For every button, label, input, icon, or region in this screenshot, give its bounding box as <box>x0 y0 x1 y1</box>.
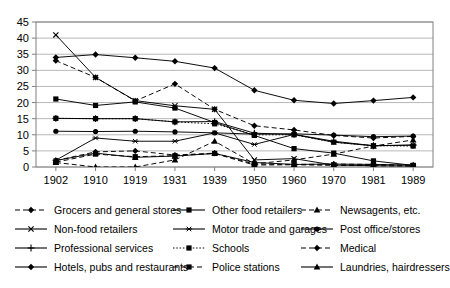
legend-key-icon <box>172 203 206 217</box>
data-point-asterisk <box>132 139 138 143</box>
legend-marker-plus-icon <box>14 241 48 255</box>
data-point-square <box>212 121 217 126</box>
series-line <box>56 118 413 145</box>
legend-item-label: Laundries, hairdressers <box>340 261 450 273</box>
data-point-diamond <box>28 206 34 212</box>
data-point-square <box>133 116 138 121</box>
series-professional-services <box>52 115 416 149</box>
data-point-circle <box>172 129 177 134</box>
x-axis-tick-label: 1970 <box>322 174 346 186</box>
data-point-circle <box>371 134 376 139</box>
data-point-asterisk <box>92 136 98 140</box>
legend-item-post-office-stores[interactable]: Post office/stores <box>300 219 438 238</box>
legend-item-motor-trade-and-garages[interactable]: Motor trade and garages <box>172 219 300 238</box>
data-point-diamond <box>331 100 337 106</box>
y-axis-tick-label: 35 <box>17 48 29 60</box>
chart-plot-area: 0510152025303540451902191019191931193919… <box>0 0 446 196</box>
legend-key-icon <box>172 222 206 236</box>
data-point-diamond <box>251 87 257 93</box>
legend-item-label: Professional services <box>54 242 153 254</box>
series-other-food-retailers <box>53 96 416 168</box>
legend-marker-triangle-icon <box>300 203 334 217</box>
data-point-square <box>291 132 296 137</box>
data-point-square <box>371 143 376 148</box>
data-point-diamond <box>28 263 34 269</box>
legend-item-police-stations[interactable]: Police stations <box>172 257 300 276</box>
x-axis-tick-label: 1960 <box>282 174 306 186</box>
legend-item-label: Schools <box>212 242 249 254</box>
legend-item-newsagents-etc[interactable]: Newsagents, etc. <box>300 200 438 219</box>
legend-item-schools[interactable]: Schools <box>172 238 300 257</box>
data-point-asterisk <box>186 226 192 230</box>
legend-item-label: Medical <box>340 242 376 254</box>
legend-key-icon <box>300 241 334 255</box>
legend-item-other-food-retailers[interactable]: Other food retailers <box>172 200 300 219</box>
data-point-square <box>186 264 191 269</box>
series-non-food-retailers <box>53 32 416 168</box>
data-point-diamond <box>132 55 138 61</box>
data-point-square <box>93 116 98 121</box>
series-line <box>56 61 413 138</box>
series-schools <box>53 116 416 149</box>
y-axis-tick-label: 30 <box>17 64 29 76</box>
data-point-circle <box>212 130 217 135</box>
legend-item-professional-services[interactable]: Professional services <box>14 238 172 257</box>
legend-marker-diamond-icon <box>14 203 48 217</box>
legend-item-non-food-retailers[interactable]: Non-food retailers <box>14 219 172 238</box>
legend-marker-asterisk-icon <box>172 222 206 236</box>
legend-marker-circle-icon <box>300 222 334 236</box>
legend-marker-diamond-icon <box>14 260 48 274</box>
series-hotels-pubs-and-restaurants <box>53 51 417 106</box>
legend-item-laundries-hairdressers[interactable]: Laundries, hairdressers <box>300 257 438 276</box>
chart-legend: Grocers and general storesOther food ret… <box>14 200 438 282</box>
data-point-circle <box>133 129 138 134</box>
legend-item-hotels-pubs-and-restaurants[interactable]: Hotels, pubs and restaurants <box>14 257 172 276</box>
data-point-asterisk <box>251 142 257 146</box>
legend-item-label: Other food retailers <box>212 204 302 216</box>
legend-key-icon <box>14 222 48 236</box>
data-point-square <box>93 103 98 108</box>
data-point-circle <box>53 129 58 134</box>
legend-item-label: Non-food retailers <box>54 223 137 235</box>
data-point-square <box>172 119 177 124</box>
data-point-square <box>252 132 257 137</box>
series-line <box>56 55 413 104</box>
y-axis-tick-label: 45 <box>17 16 29 28</box>
data-point-circle <box>93 129 98 134</box>
series-line <box>56 118 413 146</box>
legend-key-icon <box>14 203 48 217</box>
series-police-stations <box>53 151 416 169</box>
data-point-circle <box>411 133 416 138</box>
data-point-triangle <box>211 138 218 144</box>
y-axis-tick-label: 40 <box>17 32 29 44</box>
y-axis-tick-label: 25 <box>17 80 29 92</box>
legend-key-icon <box>14 241 48 255</box>
x-axis-tick-label: 1931 <box>163 174 187 186</box>
legend-marker-cross-icon <box>14 222 48 236</box>
y-axis-tick-label: 20 <box>17 97 29 109</box>
x-axis-tick-label: 1910 <box>83 174 107 186</box>
legend-item-grocers-and-general-stores[interactable]: Grocers and general stores <box>14 200 172 219</box>
x-axis-tick-label: 1989 <box>401 174 425 186</box>
y-axis-tick-label: 10 <box>17 129 29 141</box>
y-axis-tick-label: 15 <box>17 113 29 125</box>
x-axis-tick-label: 1919 <box>123 174 147 186</box>
data-point-square <box>186 207 191 212</box>
line-chart-svg: 0510152025303540451902191019191931193919… <box>0 0 446 196</box>
legend-key-icon <box>172 260 206 274</box>
legend-key-icon <box>300 260 334 274</box>
data-point-diamond <box>53 54 59 60</box>
data-point-cross <box>53 32 58 37</box>
data-point-square <box>411 143 416 148</box>
x-axis-tick-label: 1981 <box>361 174 385 186</box>
legend-item-medical[interactable]: Medical <box>300 238 438 257</box>
legend-marker-square-icon <box>172 260 206 274</box>
series-line <box>56 99 413 165</box>
y-axis-tick-label: 0 <box>23 161 29 173</box>
data-point-plus <box>28 244 35 251</box>
x-axis-tick-label: 1902 <box>44 174 68 186</box>
data-point-square <box>186 245 191 250</box>
legend-key-icon <box>300 222 334 236</box>
legend-item-label: Grocers and general stores <box>54 204 181 216</box>
